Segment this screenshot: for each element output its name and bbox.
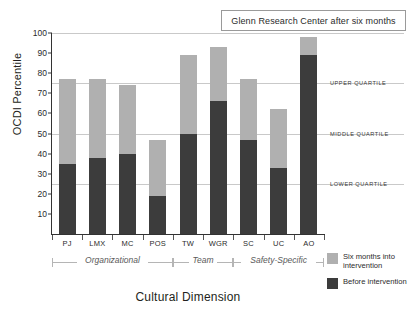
- category-group-cap: [52, 258, 53, 267]
- quartile-label: Middle quartile: [330, 131, 389, 137]
- bar-uc: [270, 109, 287, 234]
- bar-mc: [119, 85, 136, 234]
- category-group-rule: [173, 262, 190, 263]
- category-group-rule: [148, 262, 173, 263]
- x-tickmark: [324, 235, 325, 240]
- category-group: Safety-Specific: [233, 255, 324, 271]
- bar-sc: [240, 79, 257, 234]
- bar-tw: [180, 55, 197, 234]
- x-tick-label-ao: AO: [294, 239, 324, 248]
- bar-segment-before: [300, 55, 317, 234]
- category-group-rule: [52, 262, 77, 263]
- category-group-label: Safety-Specific: [233, 255, 324, 265]
- legend-swatch: [327, 278, 338, 289]
- x-tick-label-tw: TW: [173, 239, 203, 248]
- category-group-label: Team: [173, 255, 233, 265]
- x-axis-title: Cultural Dimension: [52, 290, 324, 304]
- legend-label: Six months into intervention: [343, 252, 413, 270]
- chart-title: Glenn Research Center after six months: [231, 16, 395, 26]
- x-tick-label-sc: SC: [233, 239, 263, 248]
- bar-segment-before: [270, 168, 287, 234]
- y-axis-tickmarks: [0, 33, 52, 234]
- bar-segment-before: [119, 154, 136, 234]
- bar-lmx: [89, 79, 106, 234]
- category-group-cap: [173, 258, 174, 267]
- x-tick-label-pj: PJ: [52, 239, 82, 248]
- category-group-label: Organizational: [52, 255, 173, 265]
- category-group-cap: [233, 258, 234, 267]
- legend-swatch: [327, 253, 338, 264]
- plot-area: [52, 33, 324, 234]
- bar-pos: [149, 140, 166, 234]
- legend-item: Before intervention: [327, 277, 413, 289]
- quartile-label: Upper quartile: [330, 80, 386, 86]
- quartile-label: Lower quartile: [330, 181, 388, 187]
- gridline: [52, 33, 404, 34]
- bar-ao: [300, 37, 317, 234]
- x-tick-label-lmx: LMX: [82, 239, 112, 248]
- x-tick-label-wgr: WGR: [203, 239, 233, 248]
- x-tick-label-uc: UC: [264, 239, 294, 248]
- category-group: Organizational: [52, 255, 173, 271]
- chart-title-box: Glenn Research Center after six months: [221, 10, 406, 31]
- bar-segment-before: [180, 134, 197, 235]
- category-group-rule: [217, 262, 234, 263]
- legend-label: Before intervention: [343, 277, 407, 286]
- category-group: Team: [173, 255, 233, 271]
- x-tick-label-mc: MC: [113, 239, 143, 248]
- bar-segment-before: [149, 196, 166, 234]
- category-group-rule: [233, 262, 241, 263]
- bar-pj: [59, 79, 76, 234]
- category-group-cap: [323, 258, 324, 267]
- bar-segment-before: [240, 140, 257, 234]
- x-tick-label-pos: POS: [143, 239, 173, 248]
- chart-legend: Six months into interventionBefore inter…: [327, 252, 413, 296]
- bar-segment-before: [210, 101, 227, 234]
- legend-item: Six months into intervention: [327, 252, 413, 270]
- bar-segment-before: [59, 164, 76, 234]
- chart-figure: Glenn Research Center after six months O…: [0, 0, 419, 324]
- bar-segment-before: [89, 158, 106, 234]
- bar-wgr: [210, 47, 227, 234]
